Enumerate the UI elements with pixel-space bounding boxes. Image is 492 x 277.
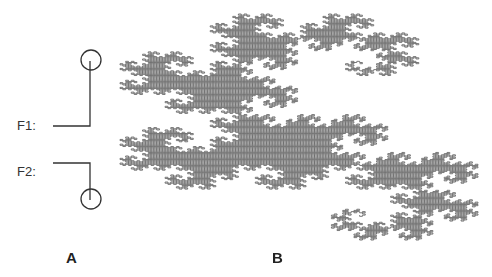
dragon-curve-fractal <box>0 0 492 277</box>
panel-label-b: B <box>272 249 283 266</box>
